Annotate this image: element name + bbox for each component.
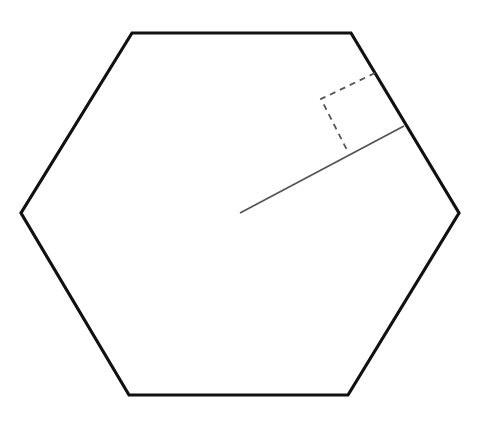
background	[0, 0, 477, 424]
hexagon-apothem-diagram	[0, 0, 477, 424]
